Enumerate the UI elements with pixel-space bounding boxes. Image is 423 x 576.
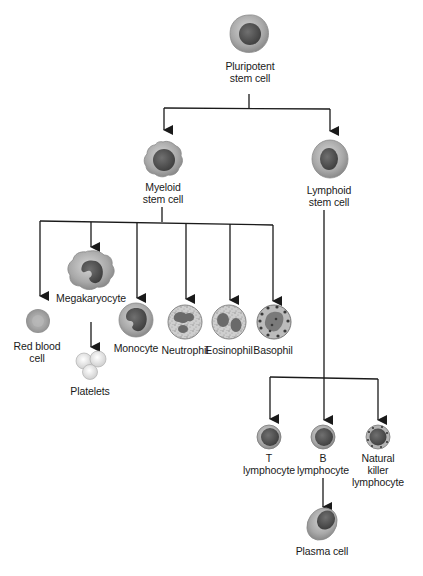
label-line: Plasma cell xyxy=(296,545,349,557)
natural-killer-lymphocyte-label: Natural killer lymphocyte xyxy=(352,452,404,488)
label-line: Natural xyxy=(352,452,404,464)
label-line: T xyxy=(243,452,295,464)
label-line: Eosinophil xyxy=(205,344,252,356)
myeloid-stem-cell-label: Myeloid stem cell xyxy=(143,181,184,205)
label-line: Monocyte xyxy=(114,342,159,354)
red-blood-cell-label: Red blood cell xyxy=(14,340,61,364)
eosinophil-icon xyxy=(212,305,246,339)
label-line: Red blood xyxy=(14,340,61,352)
eosinophil-label: Eosinophil xyxy=(205,344,252,356)
label-line: killer xyxy=(352,464,404,476)
label-line: Basophil xyxy=(253,344,292,356)
plasma-cell-icon xyxy=(301,502,343,546)
neutrophil-icon xyxy=(168,305,202,339)
label-line: Platelets xyxy=(70,385,109,397)
label-line: B xyxy=(297,452,349,464)
basophil-label: Basophil xyxy=(253,344,292,356)
hematopoiesis-diagram: Pluripotent stem cell Myeloid stem cell … xyxy=(0,0,423,576)
platelets-label: Platelets xyxy=(70,385,109,397)
pluripotent-stem-cell-icon xyxy=(230,15,268,53)
monocyte-icon xyxy=(119,303,153,337)
megakaryocyte-label: Megakaryocyte xyxy=(56,292,126,304)
myeloid-stem-cell-icon xyxy=(144,141,182,176)
neutrophil-label: Neutrophil xyxy=(162,344,209,356)
natural-killer-lymphocyte-icon xyxy=(366,425,390,449)
red-blood-cell-icon xyxy=(26,309,50,333)
t-lymphocyte-icon xyxy=(257,425,281,449)
b-lymphocyte-icon xyxy=(311,425,335,449)
pluripotent-stem-cell-label: Pluripotent stem cell xyxy=(225,60,274,84)
label-line: Neutrophil xyxy=(162,344,209,356)
t-lymphocyte-label: T lymphocyte xyxy=(243,452,295,476)
b-lymphocyte-label: B lymphocyte xyxy=(297,452,349,476)
label-line: lymphocyte xyxy=(352,476,404,488)
monocyte-label: Monocyte xyxy=(114,342,159,354)
label-line: Pluripotent xyxy=(225,60,274,72)
label-line: Myeloid xyxy=(143,181,184,193)
label-line: stem cell xyxy=(307,196,351,208)
label-line: cell xyxy=(14,352,61,364)
label-line: stem cell xyxy=(225,72,274,84)
lymphoid-stem-cell-label: Lymphoid stem cell xyxy=(307,184,351,208)
label-line: lymphocyte xyxy=(297,464,349,476)
label-line: lymphocyte xyxy=(243,464,295,476)
lymphoid-stem-cell-icon xyxy=(312,140,348,178)
platelets-icon xyxy=(76,351,106,380)
label-line: Lymphoid xyxy=(307,184,351,196)
plasma-cell-label: Plasma cell xyxy=(296,545,349,557)
diagram-graphics xyxy=(0,0,423,576)
megakaryocyte-icon xyxy=(68,251,114,290)
label-line: stem cell xyxy=(143,193,184,205)
label-line: Megakaryocyte xyxy=(56,292,126,304)
basophil-icon xyxy=(257,305,291,339)
